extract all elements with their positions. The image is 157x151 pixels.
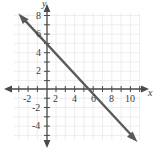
x-tick-label-10: 10 (125, 94, 135, 104)
x-tick-label--2: -2 (23, 94, 31, 104)
y-tick-label-6: 6 (36, 29, 41, 39)
x-tick-label-6: 6 (91, 94, 96, 104)
x-axis (4, 86, 149, 93)
y-tick-label--2: -2 (32, 103, 40, 113)
x-tick-label-4: 4 (72, 94, 77, 104)
graph-canvas (0, 0, 157, 151)
arrow-left-icon (4, 86, 12, 93)
x-tick-label-8: 8 (109, 94, 114, 104)
y-tick-label--4: -4 (32, 121, 40, 131)
arrow-down-icon (44, 140, 51, 148)
y-tick-label-2: 2 (36, 66, 41, 76)
y-tick-label-8: 8 (36, 11, 41, 21)
x-axis-label: x (148, 88, 152, 98)
y-tick-label-4: 4 (36, 48, 41, 58)
y-axis-label: y (42, 0, 46, 9)
x-tick-label-2: 2 (53, 94, 58, 104)
coordinate-plane-figure: -2 2 4 6 8 10 8 6 4 2 -2 -4 x y (0, 0, 157, 151)
